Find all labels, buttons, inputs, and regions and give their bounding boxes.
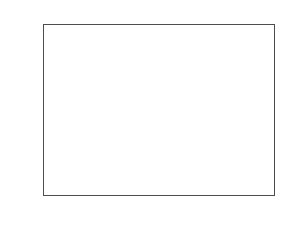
- plot-area: [44, 25, 274, 195]
- plot-axes: [43, 24, 275, 196]
- stem-plot-figure: [0, 0, 297, 237]
